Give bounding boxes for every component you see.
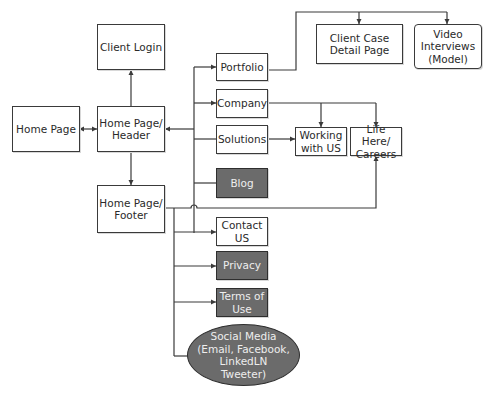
node-solutions: Solutions (216, 125, 268, 154)
node-portfolio: Portfolio (216, 53, 268, 81)
node-privacy: Privacy (216, 251, 268, 280)
node-life-here-careers: Life Here/ Careers (350, 127, 402, 156)
node-home-page: Home Page (12, 106, 80, 152)
node-company: Company (216, 89, 268, 118)
node-working-with-us: Working with US (295, 127, 347, 156)
sitemap-diagram: Home Page Client Login Home Page/ Header… (0, 0, 496, 393)
node-video-interviews: Video Interviews (Model) (414, 24, 482, 69)
node-client-case-detail: Client Case Detail Page (316, 24, 403, 64)
node-home-page-footer: Home Page/ Footer (97, 185, 165, 233)
node-social-media: Social Media (Email, Facebook, LinkedLN … (187, 324, 300, 386)
node-client-login: Client Login (97, 24, 165, 70)
node-home-page-header: Home Page/ Header (97, 106, 165, 152)
node-terms-of-use: Terms of Use (216, 288, 268, 317)
node-contact-us: Contact US (216, 217, 268, 246)
node-blog: Blog (216, 168, 268, 198)
